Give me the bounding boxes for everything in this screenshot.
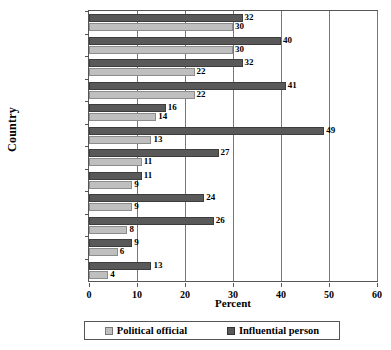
x-axis-tick: [329, 283, 330, 287]
bar-value-label: 32: [245, 58, 254, 66]
x-axis-tick: [281, 283, 282, 287]
bar-value-label: 22: [197, 90, 206, 98]
bar-political-official: [89, 136, 151, 144]
y-axis-tick: [85, 191, 89, 192]
chart-row: Ghana2711: [89, 146, 377, 169]
legend-label: Political official: [117, 325, 187, 336]
bar-value-label: 9: [134, 238, 139, 246]
bar-value-label: 32: [245, 13, 254, 21]
x-axis-tick: [89, 283, 90, 287]
bar-value-label: 16: [168, 103, 177, 111]
bar-value-label: 11: [144, 157, 153, 165]
bar-value-label: 9: [134, 202, 139, 210]
bar-political-official: [89, 158, 142, 166]
y-axis-tick: [85, 34, 89, 35]
bar-chart: Country 0102030405060Zimbabwe3230Namibia…: [0, 0, 391, 350]
bar-political-official: [89, 248, 118, 256]
bar-value-label: 13: [153, 261, 162, 269]
bar-value-label: 14: [158, 112, 167, 120]
chart-row: Mali134: [89, 259, 377, 282]
x-axis-title: Percent: [88, 297, 378, 309]
bar-value-label: 11: [144, 171, 153, 179]
y-axis-tick: [85, 79, 89, 80]
bar-political-official: [89, 23, 233, 31]
bar-political-official: [89, 271, 108, 279]
bar-political-official: [89, 226, 127, 234]
y-axis-tick: [85, 146, 89, 147]
bar-value-label: 26: [216, 216, 225, 224]
chart-row: Zimbabwe3230: [89, 11, 377, 34]
bar-value-label: 22: [197, 67, 206, 75]
y-axis-tick: [85, 101, 89, 102]
bar-influential-person: [89, 149, 219, 157]
chart-row: Tanzania268: [89, 214, 377, 237]
x-axis-tick: [137, 283, 138, 287]
y-axis-tick: [85, 56, 89, 57]
legend-item: Political official: [105, 325, 187, 336]
bar-political-official: [89, 203, 132, 211]
bar-value-label: 30: [235, 45, 244, 53]
bar-value-label: 9: [134, 180, 139, 188]
chart-row: Lesotho1614: [89, 101, 377, 124]
legend-label: Influential person: [239, 325, 319, 336]
chart-row: South Africa96: [89, 236, 377, 259]
bar-value-label: 6: [120, 247, 125, 255]
bar-value-label: 27: [221, 148, 230, 156]
bar-value-label: 24: [206, 193, 215, 201]
bar-influential-person: [89, 104, 166, 112]
x-axis-tick: [185, 283, 186, 287]
bar-influential-person: [89, 262, 151, 270]
bar-value-label: 30: [235, 22, 244, 30]
y-axis-tick: [85, 169, 89, 170]
chart-row: Uganda4122: [89, 79, 377, 102]
y-axis-tick: [85, 236, 89, 237]
y-axis-tick: [85, 124, 89, 125]
chart-row: Nigeria4913: [89, 124, 377, 147]
bar-political-official: [89, 46, 233, 54]
bar-value-label: 49: [326, 126, 335, 134]
bar-value-label: 8: [129, 225, 134, 233]
bar-influential-person: [89, 14, 243, 22]
chart-row: Malawi249: [89, 191, 377, 214]
bar-influential-person: [89, 239, 132, 247]
bar-value-label: 4: [110, 270, 115, 278]
bar-influential-person: [89, 82, 286, 90]
x-axis-tick: [233, 283, 234, 287]
legend-swatch: [227, 327, 235, 335]
x-axis-tick: [377, 283, 378, 287]
y-axis-tick: [85, 214, 89, 215]
bar-political-official: [89, 68, 195, 76]
bar-influential-person: [89, 127, 324, 135]
chart-legend: Political officialInfluential person: [84, 321, 340, 340]
chart-row: Botswana119: [89, 169, 377, 192]
chart-row: Zambia3222: [89, 56, 377, 79]
chart-row: Namibia4030: [89, 34, 377, 57]
y-axis-tick: [85, 11, 89, 12]
plot-area: 0102030405060Zimbabwe3230Namibia4030Zamb…: [88, 10, 378, 282]
bar-influential-person: [89, 37, 281, 45]
bar-value-label: 41: [288, 81, 297, 89]
bar-value-label: 13: [153, 135, 162, 143]
gridline: [377, 11, 378, 281]
bar-influential-person: [89, 194, 204, 202]
bar-political-official: [89, 181, 132, 189]
y-axis-tick: [85, 259, 89, 260]
bar-influential-person: [89, 59, 243, 67]
y-axis-title: Country: [5, 80, 20, 180]
bar-influential-person: [89, 217, 214, 225]
legend-item: Influential person: [227, 325, 319, 336]
legend-swatch: [105, 327, 113, 335]
bar-political-official: [89, 91, 195, 99]
bar-political-official: [89, 113, 156, 121]
bar-value-label: 40: [283, 36, 292, 44]
